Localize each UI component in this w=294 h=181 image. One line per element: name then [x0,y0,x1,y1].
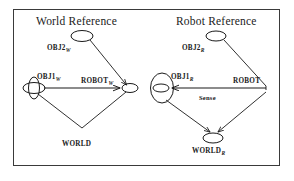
node-label-obj1w: OBJ1W [37,74,61,81]
node-label-obj1w-text: OBJ1 [37,73,56,81]
node-label-robotw-sub: W [108,80,113,86]
node-label-obj1w-sub: W [56,76,61,82]
node-label-world-text: WORLD [62,140,91,148]
panel-title-world-reference: World Reference [36,16,117,28]
figure-container: World Reference OBJ2W OBJ1W ROBOTW WORLD… [0,0,294,181]
node-label-obj2r-text: OBJ2 [182,44,201,52]
node-label-obj2r: OBJ2R [182,45,204,52]
node-label-worldr-text: WORLD [192,147,221,155]
node-label-robotr-text: ROBOT [233,77,260,85]
panel-title-robot-reference: Robot Reference [176,16,257,28]
node-label-robotw-text: ROBOT [81,77,108,85]
node-label-worldr: WORLDR [192,148,225,155]
node-label-worldr-sub: R [221,150,225,156]
node-label-obj2w-text: OBJ2 [47,44,66,52]
node-label-robotr: ROBOT [233,78,260,85]
node-label-obj1r-sub: R [190,76,194,82]
figure-frame [13,9,280,166]
node-label-world: WORLD [62,141,91,148]
node-label-robotw: ROBOTW [81,78,113,85]
node-label-obj1r-text: OBJ1 [171,73,190,81]
node-label-obj2w: OBJ2W [47,45,71,52]
node-label-obj2r-sub: R [201,47,205,53]
node-label-obj1r: OBJ1R [171,74,193,81]
node-label-obj2w-sub: W [66,47,71,53]
edge-label-sense: Sense [199,95,216,102]
